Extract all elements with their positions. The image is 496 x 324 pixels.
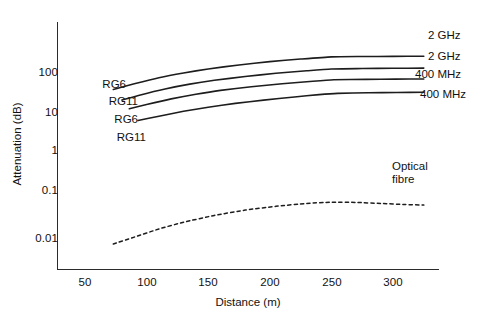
attenuation-vs-distance-chart: 100 10 1 0.1 0.01 50 100 150 200 250 300…	[0, 0, 496, 324]
curve-group	[113, 56, 423, 244]
series-curve-4	[113, 202, 423, 244]
series-curve-2	[129, 79, 423, 109]
plot-curves	[0, 0, 496, 324]
